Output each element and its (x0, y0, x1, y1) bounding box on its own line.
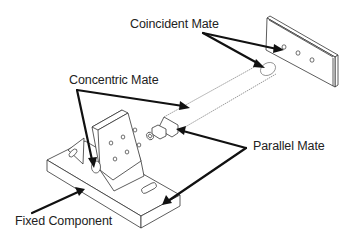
parallel-mate-label: Parallel Mate (253, 140, 325, 153)
diagram-canvas (0, 0, 351, 243)
mates-diagram: Coincident Mate Concentric Mate Parallel… (0, 0, 351, 243)
concentric-mate-label: Concentric Mate (69, 74, 159, 87)
fixed-arrow (32, 187, 85, 213)
coincident-mate-label: Coincident Mate (130, 18, 219, 31)
shaft (145, 60, 278, 141)
fixed-component-label: Fixed Component (15, 215, 112, 228)
